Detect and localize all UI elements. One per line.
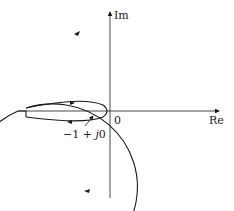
left-connector: [18, 111, 26, 117]
im-axis-label: Im: [114, 9, 129, 22]
critical-point-label: −1 + j0: [63, 128, 106, 141]
nyquist-diagram: Im Re 0 −1 + j0: [0, 0, 234, 211]
origin-label: 0: [114, 114, 121, 127]
critical-point-pointer: [85, 116, 93, 126]
direction-arrow-top: [74, 31, 80, 36]
direction-arrow-bottom: [84, 189, 90, 193]
re-axis-label: Re: [209, 114, 224, 127]
